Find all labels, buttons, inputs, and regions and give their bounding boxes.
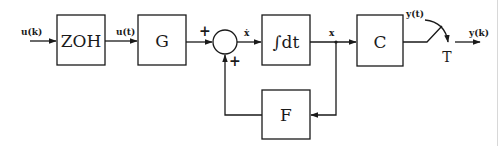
sampler-period-label: T bbox=[442, 49, 452, 65]
f-block-label: F bbox=[280, 105, 292, 125]
c-output-line bbox=[403, 26, 442, 42]
state-derivative-label: ẋ bbox=[244, 28, 250, 38]
zoh-block-label: ZOH bbox=[61, 31, 102, 51]
sum-sign-top: + bbox=[199, 23, 211, 39]
c-block-label: C bbox=[373, 32, 386, 52]
block-diagram: u(k) u(t) ẋ x y(t) y(k) ZOH G ∫dt C F + … bbox=[0, 0, 503, 146]
output-label: y(k) bbox=[468, 28, 489, 38]
page-edge-divider bbox=[497, 0, 498, 146]
integrator-block-label: ∫dt bbox=[273, 32, 300, 52]
sum-sign-bottom: + bbox=[229, 53, 241, 69]
continuous-output-label: y(t) bbox=[405, 9, 424, 19]
g-block-label: G bbox=[155, 31, 169, 51]
feedback-path-to-f bbox=[311, 42, 336, 115]
state-label: x bbox=[329, 28, 335, 38]
input-label: u(k) bbox=[21, 27, 42, 37]
zoh-output-label: u(t) bbox=[116, 27, 135, 37]
summing-junction bbox=[213, 30, 237, 54]
branch-point-dot bbox=[334, 40, 337, 43]
